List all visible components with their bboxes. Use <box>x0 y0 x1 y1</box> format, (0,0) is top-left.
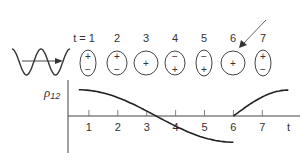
top-sign: + <box>114 51 120 62</box>
time-step-label: 2 <box>114 32 120 44</box>
x-tick-label: 5 <box>201 121 207 133</box>
time-step-label: 5 <box>201 32 207 44</box>
time-step-5: 5−+ <box>196 32 212 76</box>
time-steps: t = 1+−2+−3+4−+5−+6+7+− <box>73 32 271 76</box>
top-sign: + <box>85 51 91 62</box>
top-sign: − <box>201 51 207 62</box>
center-sign: + <box>230 58 236 69</box>
bottom-sign: + <box>201 64 207 75</box>
x-tick-label: 6 <box>230 121 236 133</box>
sine-wave <box>12 49 70 75</box>
x-tick-label: 2 <box>115 121 121 133</box>
center-sign: + <box>143 58 149 69</box>
top-sign: + <box>260 51 266 62</box>
time-step-4: 4−+ <box>165 32 185 75</box>
x-axis-label: t <box>287 121 290 133</box>
time-step-label: 4 <box>172 32 178 44</box>
time-step-3: 3+ <box>134 32 158 75</box>
bottom-sign: + <box>172 64 178 75</box>
x-tick-label: 3 <box>144 121 150 133</box>
y-axis-label: ρ12 <box>43 85 60 101</box>
time-step-label: 7 <box>260 32 266 44</box>
curve-segment-2 <box>233 90 288 116</box>
x-ticks: 1234567 <box>86 110 266 133</box>
time-step-1: t = 1+− <box>73 32 96 76</box>
top-sign: − <box>172 51 178 62</box>
time-step-label: t = 1 <box>73 32 95 44</box>
x-tick-label: 1 <box>86 121 92 133</box>
x-tick-label: 7 <box>259 121 265 133</box>
graph: ρ12 t 1234567 <box>43 80 300 153</box>
sine-wave-with-arrow-icon <box>12 49 70 75</box>
bottom-sign: − <box>260 64 266 75</box>
diagram-canvas: t = 1+−2+−3+4−+5−+6+7+− ρ12 t 1234567 <box>0 0 304 164</box>
time-step-label: 3 <box>143 32 149 44</box>
time-step-label: 6 <box>230 32 236 44</box>
time-step-2: 2+− <box>107 32 127 75</box>
bottom-sign: − <box>85 64 91 75</box>
time-step-7: 7+− <box>255 32 271 76</box>
time-step-6: 6+ <box>221 32 245 75</box>
bottom-sign: − <box>114 64 120 75</box>
